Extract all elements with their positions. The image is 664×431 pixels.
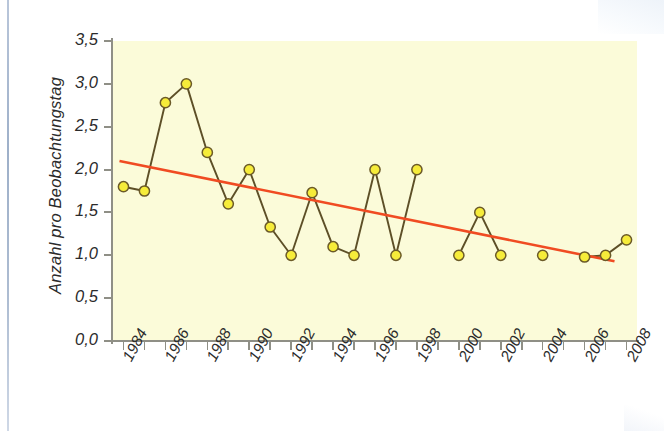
- data-point: [328, 242, 338, 252]
- data-point: [496, 250, 506, 260]
- data-point: [139, 186, 149, 196]
- chart-page: Anzahl pro Beobachtungstag 0,00,51,01,52…: [0, 0, 664, 431]
- data-point: [580, 252, 590, 262]
- data-point: [286, 250, 296, 260]
- data-point: [391, 250, 401, 260]
- data-point: [349, 250, 359, 260]
- trend-line: [119, 161, 614, 261]
- data-point: [265, 222, 275, 232]
- data-point: [412, 164, 422, 174]
- data-point: [370, 164, 380, 174]
- data-point: [600, 250, 610, 260]
- data-point: [538, 250, 548, 260]
- data-point: [244, 164, 254, 174]
- trend-line-path: [119, 161, 614, 261]
- data-point: [223, 199, 233, 209]
- data-point: [475, 207, 485, 217]
- data-markers: [118, 79, 631, 262]
- data-point: [202, 147, 212, 157]
- data-point: [621, 235, 631, 245]
- data-point: [454, 250, 464, 260]
- data-point: [307, 188, 317, 198]
- data-point: [118, 182, 128, 192]
- data-point: [181, 79, 191, 89]
- data-point: [160, 98, 170, 108]
- chart-svg: [0, 0, 664, 431]
